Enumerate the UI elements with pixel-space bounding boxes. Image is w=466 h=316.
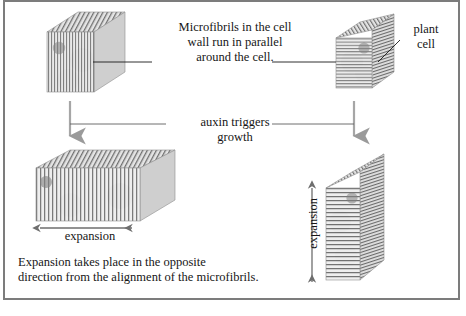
expansion-label-vertical: expansion <box>306 178 321 268</box>
expansion-label-horizontal: expansion <box>30 229 150 244</box>
bottom-caption: Expansion takes place in the opposite di… <box>18 255 298 285</box>
microfibril-caption: Microfibrils in the cell wall run in par… <box>155 20 315 64</box>
auxin-triggers-growth-label: auxin triggers growth <box>165 115 305 145</box>
biology-diagram-figure: Microfibrils in the cell wall run in par… <box>0 0 466 316</box>
plant-cell-label: plant cell <box>398 22 454 52</box>
